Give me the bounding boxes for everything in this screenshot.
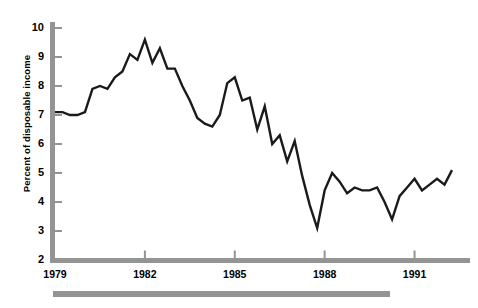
x-tick-mark [324, 251, 326, 259]
y-tick-label: 6 [22, 137, 44, 149]
y-tick-mark [55, 114, 62, 116]
x-tick-mark [414, 251, 416, 259]
x-tick-mark [144, 251, 146, 259]
y-tick-mark [55, 143, 62, 145]
x-tick-label: 1982 [122, 268, 168, 280]
x-tick-label: 1988 [302, 268, 348, 280]
x-axis-ticks [144, 251, 416, 259]
x-tick-mark [234, 251, 236, 259]
chart-plot-area [0, 0, 478, 308]
y-tick-label: 4 [22, 195, 44, 207]
y-tick-label: 8 [22, 79, 44, 91]
y-tick-label: 7 [22, 108, 44, 120]
y-tick-mark [55, 230, 62, 232]
y-axis-line [50, 22, 55, 263]
savings-rate-line [55, 40, 452, 229]
y-tick-label: 10 [22, 21, 44, 33]
y-tick-label: 9 [22, 50, 44, 62]
y-tick-label: 3 [22, 224, 44, 236]
y-tick-label: 5 [22, 166, 44, 178]
footer-rule-bar [53, 291, 390, 297]
chart-container: Percent of disposable income 1098765432 … [0, 0, 478, 308]
x-tick-label: 1991 [392, 268, 438, 280]
y-tick-mark [55, 201, 62, 203]
y-tick-mark [55, 85, 62, 87]
y-tick-mark [55, 172, 62, 174]
y-tick-mark [55, 56, 62, 58]
y-tick-label: 2 [22, 253, 44, 265]
x-tick-label: 1979 [32, 268, 78, 280]
y-axis-ticks [55, 27, 62, 232]
x-axis-line [50, 258, 470, 263]
x-tick-label: 1985 [212, 268, 258, 280]
y-tick-mark [55, 27, 62, 29]
